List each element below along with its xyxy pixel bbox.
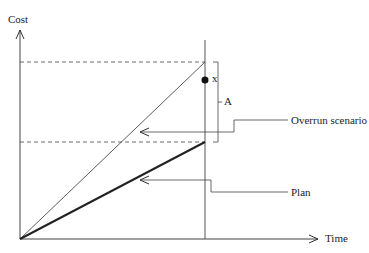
point-marker-label: x	[212, 73, 218, 84]
plan-line	[20, 142, 205, 239]
actual-cost-point	[202, 77, 209, 84]
overrun-scenario-line	[20, 62, 205, 239]
y-axis-label: Cost	[8, 14, 28, 25]
x-axis-label: Time	[325, 233, 348, 244]
overrun-leader-line	[140, 120, 288, 132]
bracket-a-label: A	[224, 96, 232, 107]
overrun-scenario-label: Overrun scenario	[291, 115, 367, 126]
cost-time-diagram	[0, 0, 369, 253]
plan-leader-line	[140, 180, 288, 192]
plan-label: Plan	[291, 187, 311, 198]
